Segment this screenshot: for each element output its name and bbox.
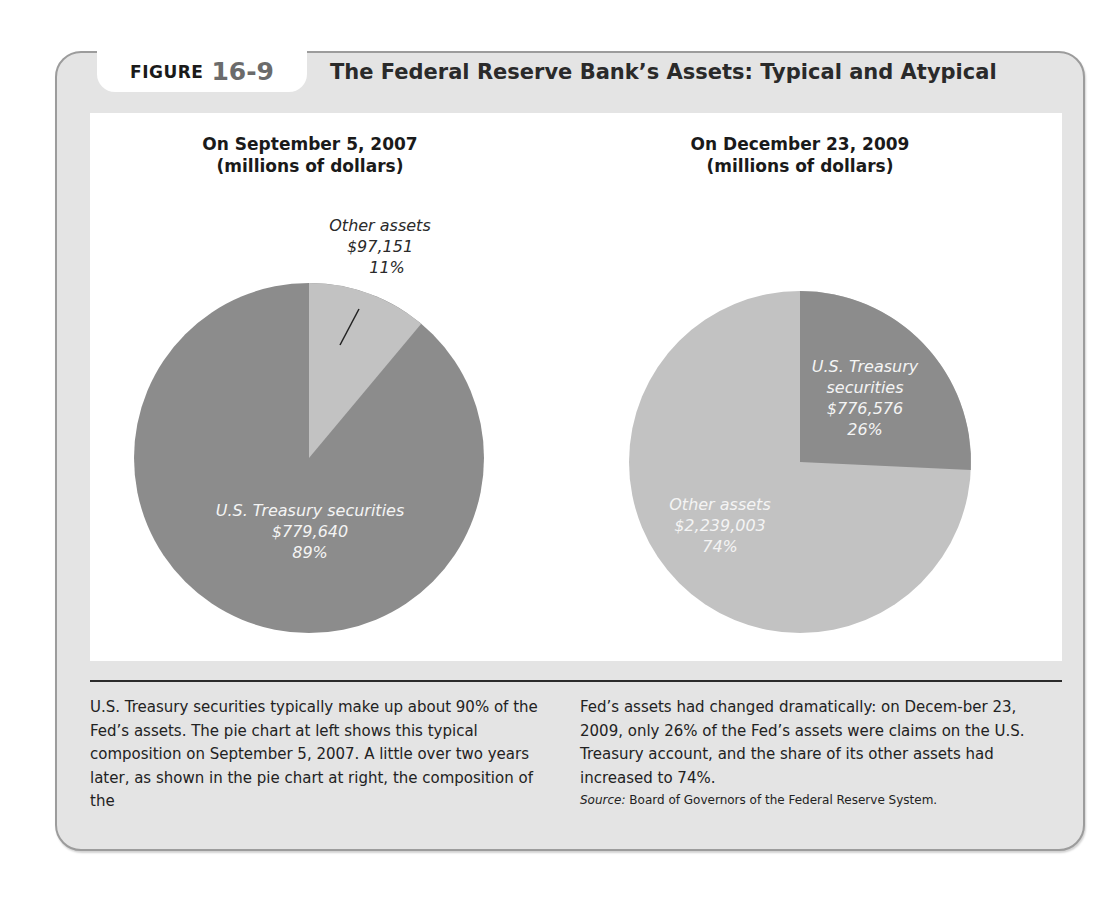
right-other-name: Other assets	[655, 494, 785, 515]
left-other-value: $97,151	[300, 236, 460, 257]
right-treasury-pct: 26%	[800, 419, 930, 440]
left-treasury-name: U.S. Treasury securities	[190, 500, 430, 521]
right-other-value: $2,239,003	[655, 515, 785, 536]
caption-right: Fed’s assets had changed dramatically: o…	[580, 696, 1050, 810]
source-label: Source:	[580, 793, 626, 807]
left-treasury-pct: 89%	[190, 542, 430, 563]
left-other-label: Other assets $97,151 11%	[300, 215, 460, 278]
right-treasury-name-line1: U.S. Treasury	[800, 356, 930, 377]
caption-right-text: Fed’s assets had changed dramatically: o…	[580, 698, 1025, 787]
source-note: Source: Board of Governors of the Federa…	[580, 790, 1050, 810]
left-other-pct: 11%	[300, 257, 460, 278]
right-other-label: Other assets $2,239,003 74%	[655, 494, 785, 557]
caption-left: U.S. Treasury securities typically make …	[90, 696, 550, 814]
right-treasury-value: $776,576	[800, 398, 930, 419]
caption-divider	[90, 680, 1062, 682]
right-other-pct: 74%	[655, 536, 785, 557]
right-treasury-name-line2: securities	[800, 377, 930, 398]
left-other-name: Other assets	[300, 215, 460, 236]
left-treasury-value: $779,640	[190, 521, 430, 542]
source-text: Board of Governors of the Federal Reserv…	[626, 793, 938, 807]
right-treasury-label: U.S. Treasury securities $776,576 26%	[800, 356, 930, 440]
left-treasury-label: U.S. Treasury securities $779,640 89%	[190, 500, 430, 563]
